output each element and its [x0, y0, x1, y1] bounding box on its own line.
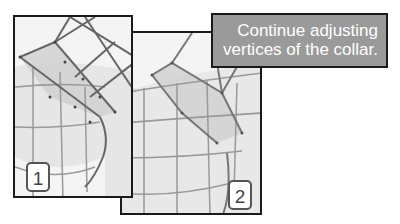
step-label-2: 2	[228, 180, 252, 210]
callout-line-1: Continue adjusting	[217, 21, 378, 40]
step-label-1: 1	[26, 162, 50, 192]
viewport-panel-step-1: 1	[13, 15, 133, 198]
instruction-callout: Continue adjusting vertices of the colla…	[211, 13, 388, 68]
callout-line-2: vertices of the collar.	[217, 40, 378, 59]
